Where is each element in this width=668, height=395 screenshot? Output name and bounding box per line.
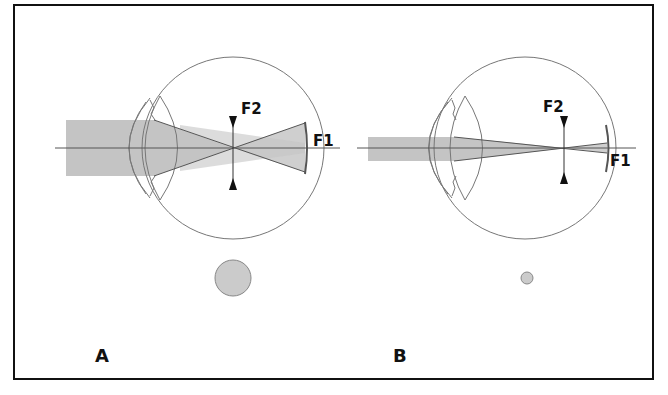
panel-b-f2-label: F2 xyxy=(543,98,564,116)
panel-b-eye xyxy=(357,57,636,239)
panel-a-pupil xyxy=(215,260,251,296)
eye-diagram xyxy=(0,0,668,395)
panel-a-label: A xyxy=(95,345,109,366)
panel-b-f1-label: F1 xyxy=(610,152,631,170)
panel-a-f1-label: F1 xyxy=(313,132,334,150)
panel-a-eye xyxy=(55,57,340,239)
panel-b-pupil xyxy=(521,272,533,284)
panel-b-label: B xyxy=(393,345,407,366)
panel-a-f2-label: F2 xyxy=(241,100,262,118)
